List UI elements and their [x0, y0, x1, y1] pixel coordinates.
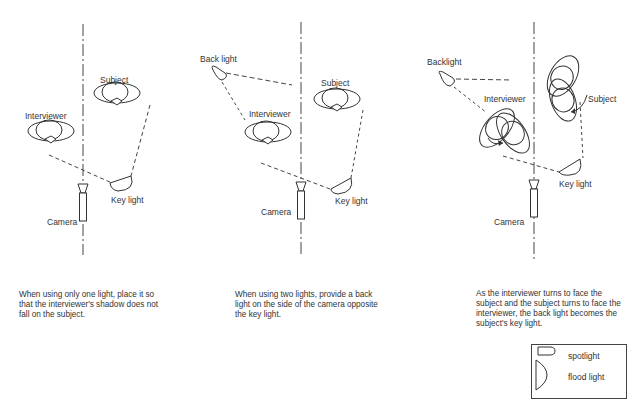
- subject-label: Subject: [100, 76, 128, 85]
- camera-label: Camera: [47, 218, 77, 227]
- back-light-spot-icon: [212, 66, 226, 80]
- back-light-label: Back light: [200, 55, 237, 64]
- back-light-label: Backlight: [427, 58, 462, 67]
- caption-panel-2: When using two lights, provide a back li…: [235, 290, 385, 320]
- interviewer-label: Interviewer: [25, 112, 67, 121]
- subject-head-icon: [314, 88, 360, 111]
- camera-icon: [78, 184, 88, 221]
- interviewer-label: Interviewer: [484, 95, 526, 104]
- interviewer-head-icon: [28, 120, 74, 143]
- caption-panel-3: As the interviewer turns to face the sub…: [476, 289, 624, 329]
- caption-panel-1: When using only one light, place it so t…: [19, 290, 169, 320]
- key-light-flood-icon: [559, 159, 581, 175]
- legend: spotlight flood light: [531, 344, 627, 399]
- legend-flood-light-label: flood light: [568, 372, 604, 382]
- subject-label: Subject: [588, 95, 616, 104]
- key-light-flood-icon: [331, 178, 352, 194]
- subject-head-icon: [94, 82, 140, 105]
- key-light-label: Key light: [559, 180, 592, 189]
- back-light-spot-icon: [439, 71, 454, 86]
- key-light-flood-icon: [110, 176, 132, 191]
- subject-head-icon: [541, 50, 586, 101]
- key-light-label: Key light: [111, 196, 144, 205]
- camera-icon: [529, 180, 539, 217]
- key-light-label: Key light: [335, 197, 368, 206]
- subject-label: Subject: [321, 79, 349, 88]
- interviewer-label: Interviewer: [249, 110, 291, 119]
- camera-icon: [296, 182, 306, 219]
- legend-spotlight-label: spotlight: [568, 351, 600, 361]
- camera-label: Camera: [494, 218, 524, 227]
- camera-label: Camera: [261, 208, 291, 217]
- interviewer-head-icon: [245, 121, 291, 144]
